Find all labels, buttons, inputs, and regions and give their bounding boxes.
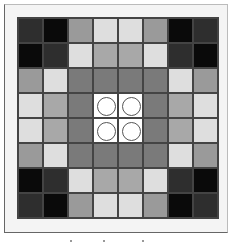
grid-cell <box>68 143 93 168</box>
grid-cell <box>43 18 68 43</box>
grid-cell <box>68 168 93 193</box>
grid-cell <box>93 118 118 143</box>
grid-cell <box>168 143 193 168</box>
caption-mark <box>142 240 144 242</box>
grid-cell <box>193 93 218 118</box>
grid-cell <box>168 18 193 43</box>
grid-cell <box>93 143 118 168</box>
grid-cell <box>143 43 168 68</box>
grid-cell <box>18 68 43 93</box>
grid-cell <box>18 143 43 168</box>
grid-cell <box>68 93 93 118</box>
grid-cell <box>18 118 43 143</box>
grid-cell <box>193 118 218 143</box>
grid-cell <box>93 43 118 68</box>
grid-cell <box>18 168 43 193</box>
grid-cell <box>43 43 68 68</box>
grid-cell <box>168 93 193 118</box>
caption <box>0 236 234 246</box>
caption-mark <box>103 240 105 242</box>
circle-icon <box>122 97 141 116</box>
grid-cell <box>118 18 143 43</box>
grid-cell <box>168 193 193 218</box>
grid-cell <box>18 18 43 43</box>
grid-cell <box>93 168 118 193</box>
grid-cell <box>43 118 68 143</box>
grid-cell <box>68 118 93 143</box>
grid-cell <box>118 93 143 118</box>
grid-cell <box>193 68 218 93</box>
grid-cell <box>168 43 193 68</box>
grid-cell <box>118 43 143 68</box>
grid-cell <box>118 68 143 93</box>
grid-cell <box>118 118 143 143</box>
grid-cell <box>93 193 118 218</box>
grid-cell <box>193 18 218 43</box>
grid-cell <box>143 93 168 118</box>
grid-cell <box>143 168 168 193</box>
grid-cell <box>168 68 193 93</box>
grid-cell <box>18 43 43 68</box>
grid-cell <box>43 68 68 93</box>
grid-cell <box>93 18 118 43</box>
grid-cell <box>118 168 143 193</box>
grid-cell <box>43 193 68 218</box>
caption-mark <box>70 240 72 242</box>
grid-cell <box>43 168 68 193</box>
grid-cell <box>193 143 218 168</box>
grid-cell <box>168 118 193 143</box>
grid-cell <box>93 68 118 93</box>
grid-cell <box>18 193 43 218</box>
grid-cell <box>143 143 168 168</box>
grid-cell <box>168 168 193 193</box>
grid-cell <box>43 93 68 118</box>
grid-cell <box>118 143 143 168</box>
circle-icon <box>97 97 116 116</box>
circle-icon <box>122 122 141 141</box>
grid-cell <box>143 193 168 218</box>
grid-cell <box>193 43 218 68</box>
grid-cell <box>143 118 168 143</box>
grid-cell <box>68 68 93 93</box>
grid-cell <box>43 143 68 168</box>
grid-cell <box>68 43 93 68</box>
grid-cell <box>143 18 168 43</box>
pattern-grid <box>17 17 219 219</box>
grid-cell <box>68 193 93 218</box>
grid-cell <box>143 68 168 93</box>
grid-cell <box>193 168 218 193</box>
circle-icon <box>97 122 116 141</box>
grid-cell <box>193 193 218 218</box>
grid-cell <box>118 193 143 218</box>
grid-cell <box>18 93 43 118</box>
grid-cell <box>68 18 93 43</box>
grid-cell <box>93 93 118 118</box>
